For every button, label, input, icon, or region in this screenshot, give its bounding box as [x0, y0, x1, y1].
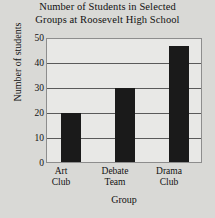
x-tick-label-art-club: Art Club — [33, 166, 89, 188]
bar-art-club — [61, 113, 81, 162]
x-axis-label: Group — [46, 194, 202, 205]
plot-area — [46, 38, 202, 163]
y-tick-label-30: 30 — [18, 84, 44, 94]
bar-chart-figure: Number of Students in Selected Groups at… — [0, 0, 215, 218]
bar-debate-team — [115, 88, 135, 162]
y-tick-label-50: 50 — [18, 34, 44, 44]
x-tick-label-drama-club: Drama Club — [141, 166, 197, 188]
chart-title-line-2: Groups at Roosevelt High School — [0, 14, 215, 27]
y-tick-label-10: 10 — [18, 134, 44, 144]
x-tick-label-debate-team: Debate Team — [87, 166, 143, 188]
y-tick-label-40: 40 — [18, 59, 44, 69]
bar-drama-club — [169, 46, 189, 162]
chart-title: Number of Students in Selected Groups at… — [0, 1, 215, 26]
y-tick-label-20: 20 — [18, 109, 44, 119]
chart-title-line-1: Number of Students in Selected — [0, 1, 215, 14]
